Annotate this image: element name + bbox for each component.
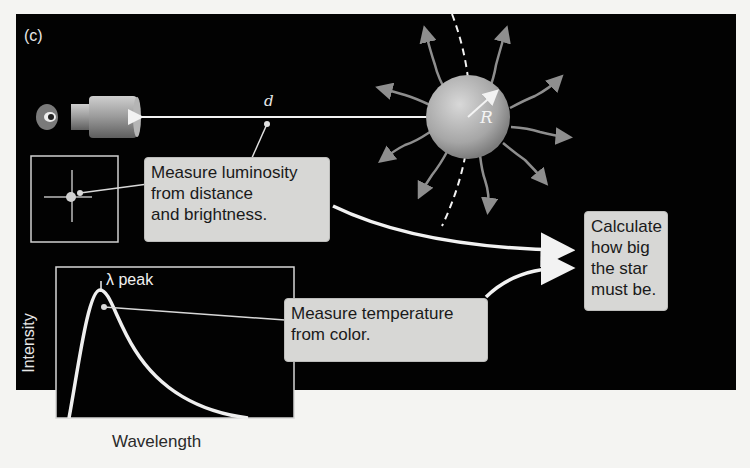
panel-label: (c)	[24, 27, 43, 45]
x-axis-label: Wavelength	[112, 432, 201, 452]
telescope-icon	[71, 96, 141, 138]
callout-star-size: Calculate how big the star must be.	[584, 211, 668, 311]
radius-label: R	[480, 107, 493, 127]
y-axis-label: Intensity	[15, 300, 43, 386]
callout-luminosity: Measure luminosity from distance and bri…	[144, 157, 330, 242]
arrow-temperature-to-size	[486, 268, 565, 297]
callout-temperature: Measure temperature from color.	[284, 298, 488, 362]
y-axis-text: Intensity	[20, 313, 38, 373]
lambda-peak-label: λ peak	[106, 271, 153, 289]
spectrum-plot-box	[56, 267, 294, 418]
distance-label: d	[264, 92, 274, 110]
eye-icon	[36, 104, 58, 130]
arrow-luminosity-to-size	[333, 206, 565, 250]
